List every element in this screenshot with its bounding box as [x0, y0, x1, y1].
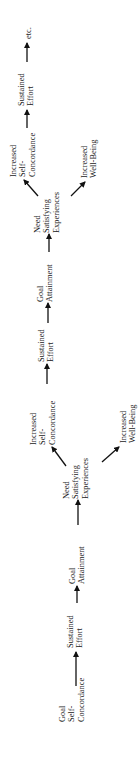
- node-line: Effort: [46, 329, 55, 362]
- node-goal-attainment-2: Goal Attainment: [36, 264, 55, 302]
- arrow-nse2-to-iwb2: [71, 182, 85, 196]
- node-sustained-effort-2: Sustained Effort: [37, 329, 56, 362]
- node-line: Attainment: [45, 264, 54, 302]
- node-line: Effort: [26, 73, 35, 106]
- node-line: Effort: [75, 615, 84, 648]
- node-line: Concordance: [77, 678, 86, 722]
- node-line: Increased: [9, 133, 18, 177]
- node-line: Sustained: [66, 615, 75, 648]
- node-etc: etc.: [24, 27, 33, 39]
- node-need-satisfying-1: Need Satisfying Experiences: [62, 458, 90, 499]
- arrow-nse1-to-iwb1: [102, 447, 119, 462]
- node-line: Goal: [36, 264, 45, 302]
- node-line: etc.: [24, 27, 33, 39]
- node-line: Satisfying: [71, 458, 80, 499]
- node-line: Sustained: [37, 329, 46, 362]
- node-increased-self-concordance-2: Increased Self- Concordance: [9, 133, 37, 177]
- node-line: Well-Being: [89, 140, 98, 178]
- node-line: Sustained: [17, 73, 26, 106]
- node-line: Attainment: [77, 546, 86, 584]
- node-line: Self-: [67, 678, 76, 722]
- node-need-satisfying-2: Need Satisfying Experiences: [33, 192, 61, 233]
- node-sustained-effort-1: Sustained Effort: [66, 615, 85, 648]
- node-line: Well-Being: [128, 405, 137, 443]
- node-line: Increased: [80, 140, 89, 178]
- node-goal-attainment-1: Goal Attainment: [68, 546, 87, 584]
- node-line: Need: [33, 192, 42, 233]
- node-line: Concordance: [28, 133, 37, 177]
- node-increased-well-being-2: Increased Well-Being: [80, 140, 99, 178]
- node-line: Self-: [38, 401, 47, 445]
- node-line: Self-: [18, 133, 27, 177]
- node-line: Need: [62, 458, 71, 499]
- node-line: Satisfying: [42, 192, 51, 233]
- node-line: Increased: [119, 405, 128, 443]
- node-increased-self-concordance-1: Increased Self- Concordance: [29, 401, 57, 445]
- node-line: Goal: [58, 678, 67, 722]
- node-sustained-effort-3: Sustained Effort: [17, 73, 36, 106]
- node-line: Goal: [68, 546, 77, 584]
- node-line: Experiences: [52, 192, 61, 233]
- node-goal-self-concordance: Goal Self- Concordance: [58, 678, 86, 722]
- node-line: Concordance: [48, 401, 57, 445]
- node-line: Experiences: [81, 458, 90, 499]
- node-increased-well-being-1: Increased Well-Being: [119, 405, 138, 443]
- node-line: Increased: [29, 401, 38, 445]
